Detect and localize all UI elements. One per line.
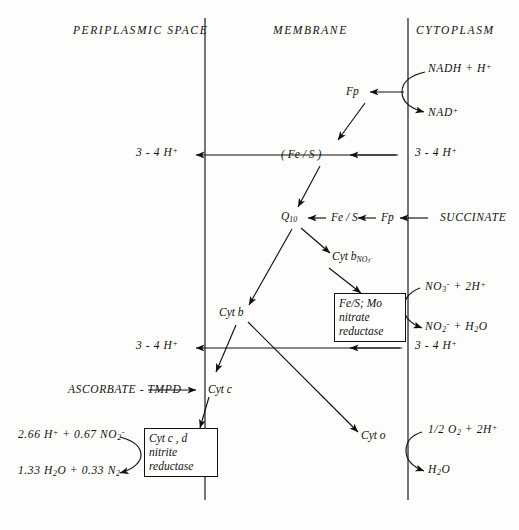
- label-water-product: H2O: [428, 463, 450, 478]
- carrier-cyt-b: Cyt b: [219, 306, 244, 319]
- label-succinate: SUCCINATE: [440, 211, 506, 224]
- header-cytoplasm: CYTOPLASM: [416, 24, 495, 37]
- nitrate-reductase-line-1: Fe/S; Mo: [339, 296, 401, 310]
- label-nadh: NADH + H+: [428, 62, 492, 75]
- arrow-fes-to-q10: [298, 166, 320, 207]
- carrier-fes-complex-ii: Fe / S: [331, 211, 358, 224]
- label-nitrite-substrate: 2.66 H+ + 0.67 NO2-: [18, 428, 125, 443]
- proton-label-cytoplasm-row2: 3 - 4 H+: [415, 339, 457, 352]
- label-oxygen-substrate: 1/2 O2 + 2H+: [428, 423, 498, 438]
- arrow-fp-to-fes: [338, 103, 365, 140]
- carrier-cyt-o: Cyt o: [361, 429, 386, 442]
- proton-label-periplasm-row1: 3 - 4 H+: [136, 146, 178, 159]
- nitrite-reductase-line-3: reductase: [149, 459, 213, 473]
- proton-label-periplasm-row2: 3 - 4 H+: [136, 339, 178, 352]
- carrier-q10: Q10: [281, 210, 297, 225]
- label-ascorbate-tmpd: ASCORBATE - TMPD: [68, 383, 181, 396]
- enzyme-box-nitrate-reductase: Fe/S; Mo nitrate reductase: [334, 293, 406, 342]
- arrow-no2-out-reductase: [404, 308, 422, 328]
- carrier-fes-complex-i: ( Fe / S ): [281, 148, 321, 161]
- arrow-nadh-to-fp: [402, 72, 425, 92]
- label-dinitrogen-product: 1.33 H2O + 0.33 N2: [18, 464, 120, 479]
- enzyme-box-nitrite-reductase: Cyt c , d nitrite reductase: [144, 428, 218, 477]
- header-membrane: MEMBRANE: [273, 24, 348, 37]
- carrier-cyt-b-no3: Cyt bNO3-: [332, 250, 372, 266]
- arrow-cytbno3-to-nitrate-reductase: [329, 268, 361, 293]
- diagram-vectors: [0, 0, 519, 530]
- nitrate-reductase-line-2: nitrate: [339, 310, 401, 324]
- label-nitrite-product: NO2- + H2O: [425, 320, 488, 335]
- arrow-nitrite-out: [120, 455, 141, 473]
- label-nad: NAD+: [428, 106, 459, 119]
- arrow-no3-into-reductase: [404, 288, 420, 308]
- header-periplasmic-space: PERIPLASMIC SPACE: [73, 24, 208, 37]
- carrier-fp-succinate: Fp: [381, 211, 394, 224]
- nitrite-reductase-line-1: Cyt c , d: [149, 431, 213, 445]
- carrier-cyt-c: Cyt c: [208, 383, 232, 396]
- diagram-canvas: PERIPLASMIC SPACE MEMBRANE CYTOPLASM NAD…: [0, 0, 519, 530]
- label-nitrate-substrate: NO3- + 2H+: [425, 280, 486, 295]
- proton-label-cytoplasm-row1: 3 - 4 H+: [415, 146, 457, 159]
- arrow-q10-to-cytbno3: [301, 228, 330, 253]
- carrier-fp-nadh: Fp: [346, 85, 359, 98]
- nitrate-reductase-line-3: reductase: [339, 324, 401, 338]
- arrow-fp-to-nad: [402, 92, 424, 112]
- arrow-h2o-out-cyto: [406, 451, 424, 471]
- nitrite-reductase-line-2: nitrite: [149, 445, 213, 459]
- arrow-q10-to-cytb: [249, 229, 292, 305]
